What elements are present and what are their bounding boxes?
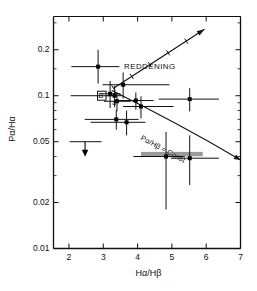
point-marker: [188, 97, 192, 101]
point-marker: [108, 92, 112, 96]
point-marker: [139, 105, 143, 109]
shaded-bars: [141, 152, 203, 156]
point-marker: [121, 83, 125, 87]
shaded-band: [141, 152, 203, 156]
point-marker: [188, 156, 192, 160]
point-marker: [134, 99, 138, 103]
plot-background: [0, 0, 257, 291]
point-marker: [96, 65, 100, 69]
point-marker: [113, 94, 117, 98]
point-marker: [115, 99, 119, 103]
point-marker: [125, 120, 129, 124]
point-marker: [164, 155, 168, 159]
scatter-plot: [0, 0, 257, 291]
point-marker: [114, 117, 118, 121]
chart-root: 2345670.20.10.050.020.01REDDENINGPα/Hβ =…: [0, 0, 257, 291]
